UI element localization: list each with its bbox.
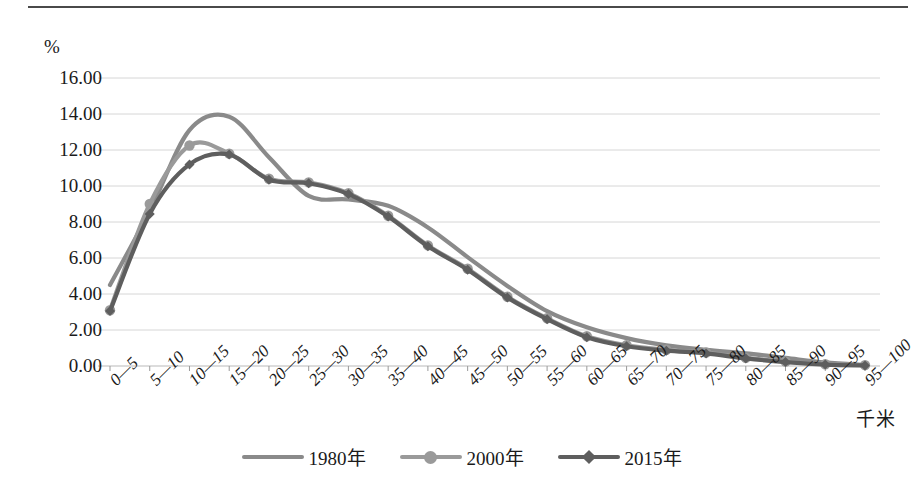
y-axis-tick-label: 6.00	[30, 247, 102, 269]
legend-label: 2000年	[467, 443, 524, 470]
legend-line	[242, 455, 304, 459]
legend-entry-2[interactable]: 2000年	[400, 443, 524, 470]
data-series-layer	[105, 115, 870, 371]
y-axis-unit-label: %	[44, 36, 60, 58]
y-axis-tick-label: 14.00	[30, 103, 102, 125]
y-axis-tick-label: 10.00	[30, 175, 102, 197]
line-chart-svg	[0, 0, 923, 497]
legend-diamond-marker-icon	[581, 449, 595, 463]
legend-label: 1980年	[309, 443, 366, 470]
legend-entry-3[interactable]: 2015年	[558, 443, 682, 470]
y-axis-tick-label: 4.00	[30, 283, 102, 305]
chart-figure: 0.002.004.006.008.0010.0012.0014.0016.00…	[0, 0, 923, 497]
y-axis-tick-label: 12.00	[30, 139, 102, 161]
y-axis-tick-label: 0.00	[30, 355, 102, 377]
series-line-3	[110, 154, 865, 366]
legend-circle-marker-icon	[424, 451, 437, 464]
gridlines	[98, 78, 880, 366]
legend-swatch	[558, 450, 620, 464]
legend-swatch	[400, 450, 462, 464]
legend-entry-1[interactable]: 1980年	[242, 443, 366, 470]
plot-area: 0.002.004.006.008.0010.0012.0014.0016.00…	[0, 0, 923, 497]
legend-swatch	[242, 450, 304, 464]
y-axis-tick-label: 2.00	[30, 319, 102, 341]
y-axis-tick-label: 16.00	[30, 67, 102, 89]
legend-label: 2015年	[625, 443, 682, 470]
series-line-2	[110, 142, 865, 365]
chart-legend: 1980年2000年2015年	[0, 443, 923, 470]
y-axis-tick-label: 8.00	[30, 211, 102, 233]
x-axis-unit-label: 千米	[856, 404, 895, 431]
data-point-marker	[184, 140, 194, 150]
